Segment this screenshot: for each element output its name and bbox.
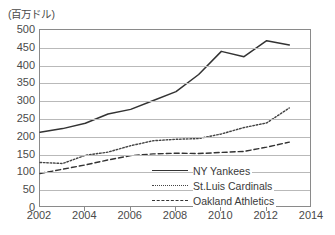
y-axis-tick-label: 300 <box>17 94 35 106</box>
legend-line-sample <box>152 170 188 171</box>
gridline <box>40 119 310 120</box>
legend-line-sample <box>152 185 188 186</box>
y-axis-tick-label: 450 <box>17 41 35 53</box>
x-axis-tick-mark <box>84 207 85 211</box>
gridline <box>40 137 310 138</box>
legend-item[interactable]: NY Yankees <box>152 163 276 178</box>
gridline <box>40 83 310 84</box>
y-axis-tick-label: 500 <box>17 23 35 35</box>
gridline <box>40 66 310 67</box>
y-axis-tick-labels: 050100150200250300350400450500 <box>0 0 35 235</box>
y-axis-tick-label: 400 <box>17 59 35 71</box>
legend-label: Oakland Athletics <box>193 195 276 207</box>
line-chart: (百万ドル) 050100150200250300350400450500 20… <box>0 0 335 235</box>
y-axis-tick-label: 50 <box>23 183 35 195</box>
y-axis-tick-label: 100 <box>17 165 35 177</box>
y-axis-tick-label: 350 <box>17 76 35 88</box>
x-axis-tick-mark <box>130 207 131 211</box>
y-axis-tick-label: 250 <box>17 112 35 124</box>
x-axis-tick-label: 2014 <box>299 209 323 221</box>
chart-legend: NY YankeesSt.Luis CardinalsOakland Athle… <box>152 163 276 208</box>
legend-label: St.Luis Cardinals <box>193 180 274 192</box>
y-axis-tick-label: 150 <box>17 148 35 160</box>
gridline <box>40 101 310 102</box>
x-axis-tick-label: 2002 <box>27 209 51 221</box>
gridline <box>40 48 310 49</box>
legend-label: NY Yankees <box>193 165 252 177</box>
legend-line-sample <box>152 200 188 201</box>
y-axis-tick-label: 200 <box>17 130 35 142</box>
gridline <box>40 155 310 156</box>
legend-item[interactable]: Oakland Athletics <box>152 193 276 208</box>
legend-item[interactable]: St.Luis Cardinals <box>152 178 276 193</box>
